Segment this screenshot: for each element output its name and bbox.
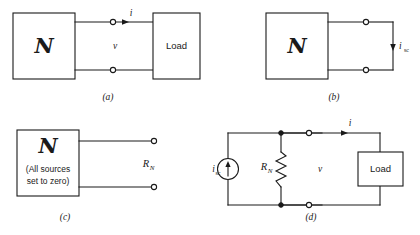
terminal-a-top [110,19,115,24]
terminal-a-bottom [110,67,115,72]
terminal-c-top [151,138,156,143]
load-label-d: Load [370,163,391,174]
panel-caption-b: (b) [328,92,339,103]
voltage-label-d: v [318,164,323,174]
current-label-a: i [130,8,133,18]
network-note-line1-c: (All sources [26,164,70,174]
figure-container: N Load i v (a) N i sc (b) [0,0,420,235]
current-arrow-a [122,19,129,25]
terminal-d-bottom [306,202,311,207]
resistor-sub-c: N [149,164,155,172]
current-label-d: i [349,118,352,128]
panel-caption-d: (d) [305,212,316,223]
panel-c: N (All sources set to zero) R N (c) [17,130,157,223]
network-symbol-c: N [37,133,58,158]
panel-d: i sc R N v i Load (d) [212,118,403,223]
source-sub-d: sc [216,170,221,176]
network-symbol-b: N [286,33,307,58]
voltage-label-a: v [113,41,118,51]
network-note-line2-c: set to zero) [27,176,70,186]
resistor-label-d: R [260,161,268,172]
current-sub-b: sc [404,47,409,53]
terminal-b-top [363,19,368,24]
terminal-c-bottom [151,184,156,189]
panel-caption-a: (a) [102,92,113,103]
network-symbol-a: N [33,33,54,58]
arrowhead-a-current [122,19,129,25]
panel-caption-c: (c) [60,212,71,223]
resistor-sub-d: N [267,167,273,175]
panel-b: N i sc (b) [266,13,409,103]
arrowhead-d-current [341,130,348,136]
load-label-a: Load [166,40,187,51]
terminal-d-top [306,130,311,135]
circuit-diagram-svg: N Load i v (a) N i sc (b) [0,0,420,235]
arrowhead-b-isc [390,44,396,51]
current-label-b: i [399,41,402,51]
panel-a: N Load i v (a) [13,8,200,104]
resistor-symbol-d [276,152,286,187]
terminal-b-bottom [363,67,368,72]
resistor-label-c: R [142,158,150,169]
